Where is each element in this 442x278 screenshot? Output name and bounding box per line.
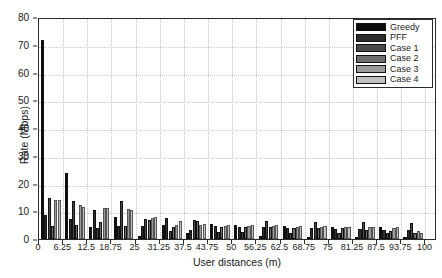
y-tick-mark [33,212,37,213]
bar-case-4 [396,227,399,239]
bar-case-4 [106,208,109,239]
legend-swatch-icon [356,34,386,42]
legend-item-case-1[interactable]: Case 1 [356,43,430,53]
x-tick-mark [207,240,208,244]
x-axis-ticks: 06.2512.518.752531.2537.543.755056.2562.… [38,242,436,256]
legend-item-case-2[interactable]: Case 2 [356,54,430,64]
y-tick-mark [33,18,37,19]
y-tick-mark [33,101,37,102]
bar-case-4 [251,225,254,239]
x-tick-mark [328,240,329,244]
y-tick-mark [33,156,37,157]
y-tick-label: 80 [18,13,29,23]
bar-case-4 [347,227,350,239]
x-tick-mark [86,240,87,244]
legend-swatch-icon [356,76,386,84]
x-tick-mark [135,240,136,244]
y-tick-mark [33,240,37,241]
bar-greedy [41,40,44,239]
y-tick-mark [33,184,37,185]
legend-item-pff[interactable]: PFF [356,33,430,43]
bar-chart-figure: 01020304050607080 Rate (Mbps) 06.2512.51… [0,0,442,278]
bar-case-4 [130,210,133,239]
x-tick-mark [159,240,160,244]
y-tick-mark [33,45,37,46]
legend-item-greedy[interactable]: Greedy [356,22,430,32]
y-tick-label: 10 [18,207,29,217]
x-tick-mark [304,240,305,244]
x-tick-mark [400,240,401,244]
bar-case-4 [420,233,423,239]
bar-case-4 [179,221,182,239]
bar-case-4 [299,226,302,239]
x-tick-mark [376,240,377,244]
bar-case-4 [58,200,61,239]
x-tick-mark [255,240,256,244]
y-tick-label: 70 [18,41,29,51]
legend-swatch-icon [356,55,386,63]
legend-label: Greedy [390,23,420,32]
y-tick-label: 0 [23,235,29,245]
bar-case-4 [275,225,278,239]
legend-label: Case 2 [390,54,419,63]
legend-item-case-3[interactable]: Case 3 [356,64,430,74]
x-tick-mark [231,240,232,244]
y-axis-label: Rate (Mbps) [18,75,30,195]
x-tick-mark [424,240,425,244]
bar-case-4 [227,225,230,239]
x-axis-label: User distances (m) [38,256,436,268]
y-tick-mark [33,73,37,74]
legend-label: PFF [390,33,407,42]
y-tick-mark [33,129,37,130]
legend-swatch-icon [356,65,386,73]
legend-item-case-4[interactable]: Case 4 [356,75,430,85]
x-tick-mark [110,240,111,244]
x-tick-mark [62,240,63,244]
x-tick-mark [38,240,39,244]
bar-case-4 [323,226,326,239]
legend-swatch-icon [356,44,386,52]
legend-label: Case 3 [390,65,419,74]
bar-case-4 [82,207,85,239]
x-tick-mark [280,240,281,244]
chart-legend: GreedyPFFCase 1Case 2Case 3Case 4 [353,19,433,88]
legend-label: Case 4 [390,75,419,84]
legend-label: Case 1 [390,44,419,53]
bar-case-4 [372,227,375,239]
bar-case-4 [203,224,206,239]
x-tick-mark [352,240,353,244]
x-tick-mark [183,240,184,244]
legend-swatch-icon [356,23,386,31]
bar-case-4 [154,217,157,239]
